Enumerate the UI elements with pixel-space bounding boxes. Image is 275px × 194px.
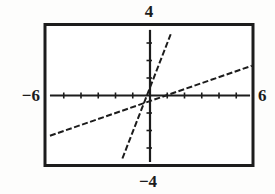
xmax-label: 6 [258, 86, 267, 105]
ymax-label: 4 [145, 2, 154, 21]
ymin-label: −4 [139, 172, 158, 191]
graph-canvas: 4 −4 −6 6 [0, 0, 275, 194]
xmin-label: −6 [22, 86, 40, 105]
calculator-graph-figure: 4 −4 −6 6 [0, 0, 275, 194]
